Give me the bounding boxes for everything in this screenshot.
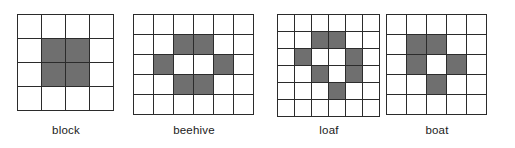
grid-cell-dead: [467, 55, 487, 75]
grid-cell-dead: [18, 87, 42, 111]
grid-row: [278, 66, 380, 83]
grid-cell-dead: [154, 75, 174, 95]
grid-cell-dead: [387, 55, 407, 75]
grid-cell-dead: [214, 95, 234, 115]
grid-row: [387, 75, 487, 95]
grid-cell-dead: [329, 66, 346, 83]
grid-cell-dead: [154, 35, 174, 55]
grid-cell-dead: [295, 15, 312, 32]
grid-cell-dead: [90, 15, 114, 39]
grid-cell-dead: [387, 15, 407, 35]
grid-cell-dead: [278, 83, 295, 100]
grid-row: [387, 55, 487, 75]
grid-cell-alive: [312, 32, 329, 49]
grid-cell-dead: [427, 55, 447, 75]
grid-cell-dead: [278, 100, 295, 117]
pattern-grid-beehive: [133, 14, 254, 115]
grid-cell-alive: [407, 55, 427, 75]
grid-cell-dead: [407, 75, 427, 95]
grid-cell-dead: [234, 35, 254, 55]
grid-cell-dead: [90, 87, 114, 111]
grid-cell-dead: [346, 83, 363, 100]
grid-cell-alive: [407, 35, 427, 55]
grid-cell-dead: [234, 15, 254, 35]
grid-cell-dead: [407, 15, 427, 35]
grid-row: [278, 15, 380, 32]
grid-cell-alive: [66, 39, 90, 63]
grid-cell-dead: [278, 15, 295, 32]
grid-cell-dead: [66, 87, 90, 111]
grid-row: [387, 95, 487, 115]
grid-cell-dead: [66, 15, 90, 39]
grid-cell-alive: [194, 75, 214, 95]
grid-cell-dead: [427, 15, 447, 35]
grid-cell-dead: [363, 83, 380, 100]
grid-cell-dead: [329, 15, 346, 32]
grid-cell-dead: [42, 15, 66, 39]
grid-row: [278, 83, 380, 100]
grid-cell-alive: [174, 35, 194, 55]
grid-cell-dead: [295, 32, 312, 49]
grid-cell-dead: [387, 95, 407, 115]
grid-cell-alive: [312, 66, 329, 83]
grid-row: [134, 75, 254, 95]
grid-cell-dead: [387, 75, 407, 95]
pattern-grid-boat: [386, 14, 487, 115]
grid-cell-dead: [363, 49, 380, 66]
grid-cell-dead: [134, 35, 154, 55]
grid-row: [18, 87, 114, 111]
grid-cell-alive: [447, 55, 467, 75]
grid-cell-dead: [329, 100, 346, 117]
grid-cell-dead: [467, 15, 487, 35]
grid-cell-dead: [447, 75, 467, 95]
grid-cell-dead: [234, 75, 254, 95]
grid-cell-dead: [329, 49, 346, 66]
grid-row: [134, 55, 254, 75]
grid-cell-dead: [295, 66, 312, 83]
grid-cell-dead: [134, 55, 154, 75]
grid-cell-alive: [329, 32, 346, 49]
grid-cell-dead: [363, 32, 380, 49]
grid-row: [134, 15, 254, 35]
grid-cell-dead: [194, 55, 214, 75]
grid-cell-dead: [387, 35, 407, 55]
grid-cell-alive: [42, 39, 66, 63]
grid-cell-alive: [346, 66, 363, 83]
pattern-grid-loaf: [277, 14, 380, 117]
grid-cell-dead: [295, 83, 312, 100]
grid-row: [18, 63, 114, 87]
grid-cell-dead: [154, 95, 174, 115]
grid-cell-dead: [234, 55, 254, 75]
still-life-patterns-figure: blockbeehiveloafboat: [0, 0, 515, 148]
grid-cell-dead: [346, 32, 363, 49]
pattern-block: block: [17, 0, 115, 148]
grid-cell-alive: [427, 75, 447, 95]
grid-cell-dead: [363, 66, 380, 83]
pattern-caption-loaf: loaf: [277, 124, 381, 136]
grid-cell-dead: [407, 95, 427, 115]
grid-cell-dead: [447, 15, 467, 35]
grid-cell-dead: [174, 15, 194, 35]
grid-cell-dead: [18, 15, 42, 39]
pattern-grid-block: [17, 14, 114, 111]
grid-cell-dead: [42, 87, 66, 111]
grid-cell-dead: [278, 32, 295, 49]
grid-cell-dead: [312, 100, 329, 117]
grid-cell-alive: [329, 83, 346, 100]
grid-cell-alive: [66, 63, 90, 87]
grid-cell-dead: [278, 66, 295, 83]
grid-cell-dead: [346, 15, 363, 32]
grid-cell-dead: [18, 63, 42, 87]
pattern-caption-beehive: beehive: [133, 124, 255, 136]
grid-cell-dead: [134, 95, 154, 115]
grid-cell-dead: [312, 83, 329, 100]
grid-cell-dead: [194, 95, 214, 115]
grid-cell-alive: [42, 63, 66, 87]
grid-cell-alive: [154, 55, 174, 75]
grid-row: [134, 35, 254, 55]
grid-cell-dead: [214, 75, 234, 95]
grid-cell-dead: [447, 95, 467, 115]
grid-cell-dead: [278, 49, 295, 66]
grid-cell-dead: [18, 39, 42, 63]
grid-row: [18, 15, 114, 39]
